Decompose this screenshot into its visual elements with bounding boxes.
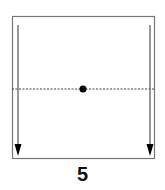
fold-diagram — [0, 0, 165, 190]
step-number: 5 — [0, 163, 165, 185]
center-dot-icon — [80, 86, 87, 93]
